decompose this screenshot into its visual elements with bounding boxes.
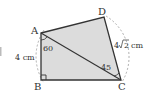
label-b: B xyxy=(34,81,41,92)
length-label-dc-root: 2 xyxy=(124,41,129,50)
angle-label-45: 45 xyxy=(101,63,111,72)
length-label-dc-unit: cm xyxy=(131,41,143,50)
label-d: D xyxy=(98,6,106,17)
label-c: C xyxy=(118,81,126,92)
edge-mark xyxy=(0,47,2,56)
angle-label-60: 60 xyxy=(43,44,53,53)
label-a: A xyxy=(30,25,39,36)
length-label-dc-coef: 4 xyxy=(114,41,119,50)
length-label-ab: 4 cm xyxy=(15,53,35,62)
quadrilateral-diagram: A B C D 60 45 4 cm 4 2 cm xyxy=(0,0,157,103)
